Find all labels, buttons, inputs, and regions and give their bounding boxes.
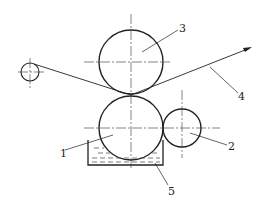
label-2: 2 <box>228 140 235 153</box>
label-4: 4 <box>238 90 245 103</box>
label-5: 5 <box>168 185 175 198</box>
web-path <box>34 48 250 95</box>
diagram-svg: 1 2 3 4 5 <box>0 0 266 208</box>
label-1: 1 <box>60 147 67 160</box>
diagram-canvas: 1 2 3 4 5 <box>0 0 266 208</box>
label-3: 3 <box>179 22 186 35</box>
arrow-head-icon <box>243 47 252 52</box>
